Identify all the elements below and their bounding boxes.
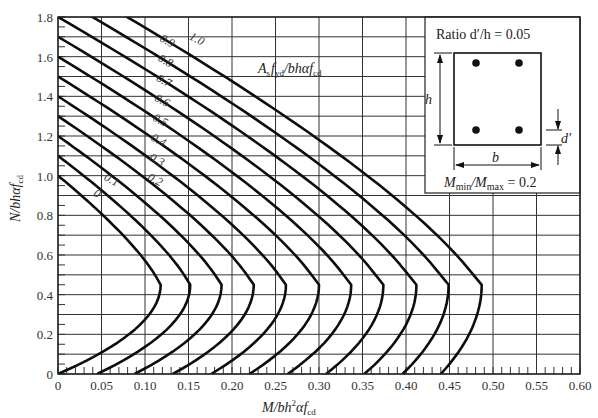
x-tick-label: 0.55: [525, 378, 548, 393]
interaction-diagram: 00.050.100.150.200.250.300.350.400.450.5…: [0, 0, 598, 418]
rebar-dot: [472, 59, 480, 67]
y-tick-label: 1.0: [37, 169, 53, 184]
x-tick-label: 0.15: [177, 378, 200, 393]
x-tick-label: 0.20: [221, 378, 244, 393]
rebar-dot: [515, 59, 523, 67]
inset-panel: Ratio d′/h = 0.05 h b d′ Mmin/Mmax = 0.2: [425, 17, 580, 193]
d-label: d′: [561, 131, 572, 146]
x-tick-label: 0: [55, 378, 62, 393]
h-label: h: [425, 92, 432, 107]
x-tick-label: 0.30: [308, 378, 331, 393]
x-tick-label: 0.05: [90, 378, 113, 393]
rebar-dot: [515, 126, 523, 134]
rebar-dot: [472, 126, 480, 134]
y-tick-label: 0.6: [37, 248, 54, 263]
x-tick-label: 0.60: [569, 378, 592, 393]
b-label: b: [492, 150, 499, 165]
y-tick-label: 0: [47, 367, 54, 382]
y-tick-label: 1.4: [37, 89, 54, 104]
inset-frame: [425, 17, 580, 193]
x-tick-label: 0.10: [134, 378, 157, 393]
x-tick-label: 0.50: [482, 378, 505, 393]
x-tick-label: 0.45: [438, 378, 461, 393]
y-tick-label: 0.2: [37, 327, 53, 342]
y-tick-label: 0.4: [37, 288, 54, 303]
x-tick-label: 0.35: [351, 378, 374, 393]
x-tick-label: 0.40: [395, 378, 418, 393]
ratio-text: Ratio d′/h = 0.05: [436, 27, 530, 42]
y-tick-label: 1.2: [37, 129, 53, 144]
y-tick-label: 1.6: [37, 50, 54, 65]
y-tick-label: 0.8: [37, 208, 53, 223]
x-tick-label: 0.25: [264, 378, 287, 393]
y-tick-label: 1.8: [37, 10, 53, 25]
